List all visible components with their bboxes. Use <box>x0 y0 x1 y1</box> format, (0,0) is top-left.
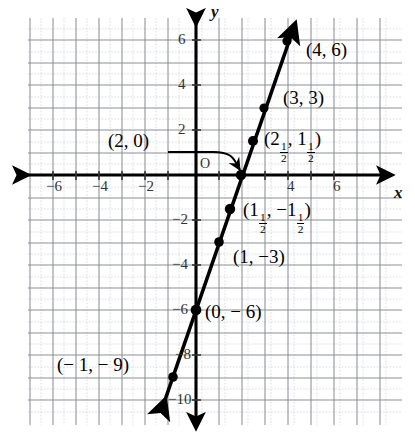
graph-canvas: y x O −6 −4 −2 4 6 6 4 2 −2 −4 −6 −8 −10… <box>0 0 415 440</box>
whole-1: 1 <box>297 128 307 149</box>
x-tick-4: 4 <box>287 179 295 194</box>
point-label-3-3: (3, 3) <box>283 88 324 107</box>
open-part: (0, <box>205 301 226 322</box>
point-label-2half-1half: (212, 112) <box>264 129 321 165</box>
x-tick-minus4: −4 <box>92 179 108 194</box>
point-2-0 <box>236 170 246 180</box>
whole-1: 1 <box>249 199 259 220</box>
point-1.5--1.5 <box>225 204 235 214</box>
fraction-one-half: 12 <box>280 141 288 165</box>
y-axis-label: y <box>211 3 219 20</box>
value-part: − 6) <box>230 301 261 322</box>
x-axis-label: x <box>394 184 403 201</box>
point-label-0-minus6: (0, − 6) <box>205 302 262 321</box>
point-4-6 <box>282 36 291 45</box>
x-part: − 1, <box>63 354 93 375</box>
y-tick-minus6: −6 <box>172 302 188 317</box>
y-tick-minus10: −10 <box>168 392 191 407</box>
y-tick-minus8: −8 <box>175 347 191 362</box>
whole-1b: 1 <box>287 199 297 220</box>
fraction-one-half-2: 12 <box>307 141 315 165</box>
point-label-minus1-minus9: (− 1, − 9) <box>57 355 129 374</box>
point-label-1half-minus1half: (112, −112) <box>243 200 311 236</box>
point-3-3 <box>259 103 268 112</box>
y-tick-4: 4 <box>178 77 186 92</box>
paren-close: ) <box>315 128 321 149</box>
x-tick-6: 6 <box>333 179 341 194</box>
comma: , <box>288 128 293 149</box>
origin-label: O <box>200 157 210 171</box>
whole-2: 2 <box>270 128 280 149</box>
point-2.5-1.5 <box>248 136 258 146</box>
paren-close: ) <box>304 199 310 220</box>
point-0--6 <box>191 305 202 316</box>
y-tick-2: 2 <box>178 122 186 137</box>
point--1--9 <box>168 372 178 382</box>
y-tick-minus2: −2 <box>172 212 188 227</box>
minus-sign: − <box>276 199 287 220</box>
point-label-1-minus3: (1, −3) <box>233 247 285 266</box>
y-tick-minus4: −4 <box>172 257 188 272</box>
point-label-2-0: (2, 0) <box>108 131 149 150</box>
point-label-4-6: (4, 6) <box>306 40 347 59</box>
point-1--3 <box>214 237 224 247</box>
y-part: − 9) <box>98 354 129 375</box>
comma: , <box>267 199 272 220</box>
fraction-one-half-3: 12 <box>259 212 267 236</box>
y-tick-6: 6 <box>178 32 186 47</box>
x-tick-minus6: −6 <box>46 179 62 194</box>
x-tick-minus2: −2 <box>138 179 154 194</box>
